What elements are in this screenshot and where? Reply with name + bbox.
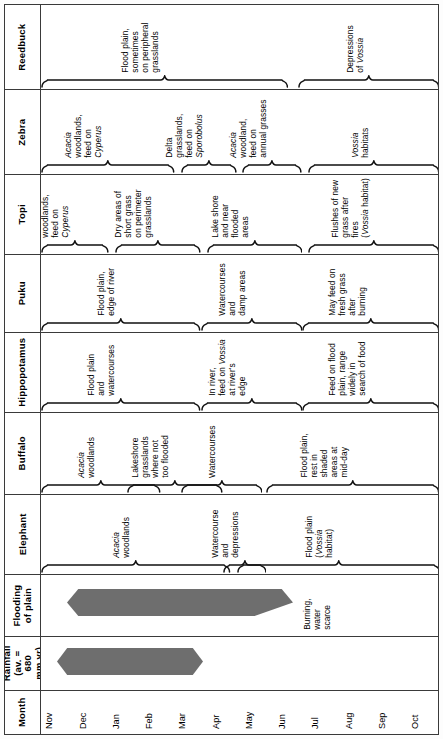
row-body-buffalo: Acaciawoodlands Lakeshoregrasslandswhere… xyxy=(41,413,438,494)
habitat-brace xyxy=(237,560,439,573)
habitat-brace xyxy=(181,160,237,173)
habitat-label: Acaciawoodlands xyxy=(112,495,132,558)
habitat-brace xyxy=(302,398,438,411)
row-label-reedbuck: Reedbuck xyxy=(5,5,41,89)
seasonal-habitat-chart: Reedbuck Flood plain,sometimeson periphe… xyxy=(0,0,443,739)
row-body-topi: Acaciawoodlands,feed onCyperus Dry areas… xyxy=(41,175,438,254)
habitat-label: May feed onfresh grassafterburning xyxy=(328,255,368,316)
row-body-elephant: Acaciawoodlands Watercourseanddepression… xyxy=(41,495,438,574)
habitat-brace xyxy=(41,240,109,253)
habitat-brace xyxy=(115,240,201,253)
row-label-text: Puku xyxy=(17,281,28,305)
habitat-label: Flood plain(Vossiahabitat) xyxy=(305,495,335,558)
habitat-brace xyxy=(41,160,175,173)
row-label-month: Month xyxy=(5,691,41,734)
row-label-text: Reedbuck xyxy=(17,23,28,70)
species-row-puku: Puku Flood plain,edge of river Watercour… xyxy=(4,254,439,332)
row-label-flooding: Flooding of plain xyxy=(5,575,41,636)
habitat-brace xyxy=(201,318,303,331)
row-body-flooding: Burning,waterscarce xyxy=(41,575,438,636)
habitat-label: Acaciawoodlands xyxy=(78,413,98,478)
habitat-brace xyxy=(266,480,438,493)
habitat-brace xyxy=(207,240,303,253)
row-body-puku: Flood plain,edge of river Watercoursesan… xyxy=(41,255,438,332)
habitat-label: Lakeshoregrasslandswhere nottoo flooded xyxy=(132,413,172,478)
habitat-brace xyxy=(298,75,438,88)
row-label-text: Elephant xyxy=(17,514,28,556)
row-label-text: Topi xyxy=(17,204,28,224)
species-row-hippopotamus: Hippopotamus Flood plainandwatercourses … xyxy=(4,332,439,412)
habitat-label: Acaciawoodlands,feed onCyperus xyxy=(65,90,105,158)
month-tick-oct: Oct xyxy=(410,691,420,729)
species-row-elephant: Elephant Acaciawoodlands Watercourseandd… xyxy=(4,494,439,574)
row-label-buffalo: Buffalo xyxy=(5,413,41,494)
habitat-brace xyxy=(41,398,201,411)
habitat-brace xyxy=(181,480,263,493)
species-row-reedbuck: Reedbuck Flood plain,sometimeson periphe… xyxy=(4,4,439,89)
flooding-season-bar xyxy=(67,589,293,616)
month-tick-jan: Jan xyxy=(111,691,121,729)
habitat-label: Feed on floodplain, rangewidely insearch… xyxy=(328,333,368,396)
month-tick-feb: Feb xyxy=(144,691,154,729)
habitat-label: Acaciawoodland,feed onannual grasses xyxy=(229,90,269,158)
flooding-row: Flooding of plainBurning,waterscarce xyxy=(4,574,439,636)
month-row: MonthNovDecJanFebMarAprMayJunJulAugSepOc… xyxy=(4,690,439,735)
habitat-label: Flood plain,rest inshadedareas atmid-day xyxy=(300,413,350,478)
month-tick-apr: Apr xyxy=(211,691,221,729)
habitat-brace xyxy=(242,160,302,173)
species-row-zebra: Zebra Acaciawoodlands,feed onCyperus Del… xyxy=(4,89,439,174)
row-label-text: Zebra xyxy=(17,119,28,146)
month-tick-jun: Jun xyxy=(277,691,287,729)
habitat-brace xyxy=(201,398,303,411)
month-tick-nov: Nov xyxy=(44,691,54,729)
row-body-hippopotamus: Flood plainandwatercourses In river,feed… xyxy=(41,333,438,412)
habitat-brace xyxy=(41,318,201,331)
month-tick-dec: Dec xyxy=(78,691,88,729)
row-label-zebra: Zebra xyxy=(5,90,41,174)
row-label-text: Hippopotamus xyxy=(17,338,28,407)
month-tick-jul: Jul xyxy=(310,691,320,729)
row-label-text: Month xyxy=(17,698,28,728)
row-body-reedbuck: Flood plain,sometimeson peripheralgrassl… xyxy=(41,5,438,89)
month-tick-may: May xyxy=(244,691,254,729)
row-label-text: Rainfall(av. = 680mm yr) xyxy=(5,646,41,682)
habitat-label: Vossiahabitats xyxy=(351,90,371,158)
habitat-label: Flood plainandwatercourses xyxy=(88,333,118,396)
row-body-zebra: Acaciawoodlands,feed onCyperus Deltagras… xyxy=(41,90,438,174)
habitat-brace xyxy=(41,560,231,573)
month-tick-mar: Mar xyxy=(177,691,187,729)
habitat-brace xyxy=(308,160,438,173)
month-tick-aug: Aug xyxy=(344,691,354,729)
row-label-text: Flooding of plain xyxy=(12,585,33,627)
rainfall-season-bar xyxy=(57,648,203,675)
row-label-puku: Puku xyxy=(5,255,41,332)
habitat-label: Flood plain,edge of river xyxy=(97,255,117,316)
row-label-rainfall: Rainfall(av. = 680mm yr) xyxy=(5,637,41,690)
row-body-month: NovDecJanFebMarAprMayJunJulAugSepOct xyxy=(41,691,438,734)
habitat-label: Flushes of newgrass afterfires(Vossia ha… xyxy=(331,175,371,238)
species-row-topi: Topi Acaciawoodlands,feed onCyperus Dry … xyxy=(4,174,439,254)
habitat-label: Dry areas ofshort grasson perimetergrass… xyxy=(115,175,155,238)
habitat-brace xyxy=(308,240,438,253)
row-label-elephant: Elephant xyxy=(5,495,41,574)
habitat-label: Depressionsof Vossia xyxy=(346,5,366,73)
habitat-label: Watercourses xyxy=(208,413,218,478)
flooding-note: Burning,waterscarce xyxy=(303,575,333,630)
habitat-label: Watercoursesanddamp areas xyxy=(218,255,248,316)
rainfall-row: Rainfall(av. = 680mm yr) xyxy=(4,636,439,690)
species-row-buffalo: Buffalo Acaciawoodlands Lakeshoregrassla… xyxy=(4,412,439,494)
habitat-label: Deltagrasslands,feed onSporobolus xyxy=(165,90,205,158)
habitat-label: Watercourseanddepressions xyxy=(211,495,241,558)
row-label-hippopotamus: Hippopotamus xyxy=(5,333,41,412)
row-label-topi: Topi xyxy=(5,175,41,254)
habitat-brace xyxy=(41,75,288,88)
habitat-label: Lake shoreand nearfloodedareas xyxy=(211,175,251,238)
month-tick-sep: Sep xyxy=(377,691,387,729)
habitat-brace xyxy=(302,318,438,331)
habitat-label: Flood plain,sometimeson peripheralgrassl… xyxy=(122,5,162,73)
habitat-label: In river,feed on Vossiaat river'sedge xyxy=(208,333,248,396)
habitat-label: Acaciawoodlands,feed onCyperus xyxy=(41,175,71,238)
row-label-text: Buffalo xyxy=(17,436,28,470)
row-body-rainfall xyxy=(41,637,438,690)
